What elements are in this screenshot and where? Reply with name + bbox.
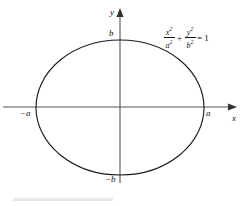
equation-fraction-x: x2 a2 <box>164 26 175 49</box>
ellipse-figure: y x b −b −a a x2 a2 + y2 b2 = 1 <box>0 0 249 206</box>
equation-fraction-y: y2 b2 <box>185 26 196 49</box>
equation-term1-denominator: a2 <box>165 38 174 49</box>
tick-label-b: b <box>109 29 114 38</box>
ellipse-diagram-canvas <box>0 0 249 206</box>
y-axis-label: y <box>110 8 114 17</box>
equation-term1-numerator: x2 <box>165 26 174 37</box>
equation-term2-denominator-exponent: 2 <box>191 39 194 45</box>
ellipse-equation: x2 a2 + y2 b2 = 1 <box>163 26 209 49</box>
tick-label-a: a <box>206 109 211 118</box>
equation-term1-numerator-exponent: 2 <box>169 26 172 32</box>
y-axis-arrowhead <box>116 8 123 17</box>
equation-term2-denominator: b2 <box>186 38 195 49</box>
equation-right-hand-side: 1 <box>204 33 209 43</box>
x-axis-arrowhead <box>228 103 237 110</box>
tick-label-negative-b: −b <box>105 175 116 184</box>
equation-term2-numerator: y2 <box>186 26 195 37</box>
x-axis-label: x <box>232 114 236 123</box>
equation-plus-operator: + <box>177 33 182 43</box>
tick-label-negative-a: −a <box>20 109 31 118</box>
equation-term1-denominator-exponent: 2 <box>170 39 173 45</box>
caption-rule <box>13 198 113 201</box>
equation-term2-numerator-exponent: 2 <box>190 26 193 32</box>
equation-equals-sign: = <box>197 33 202 43</box>
